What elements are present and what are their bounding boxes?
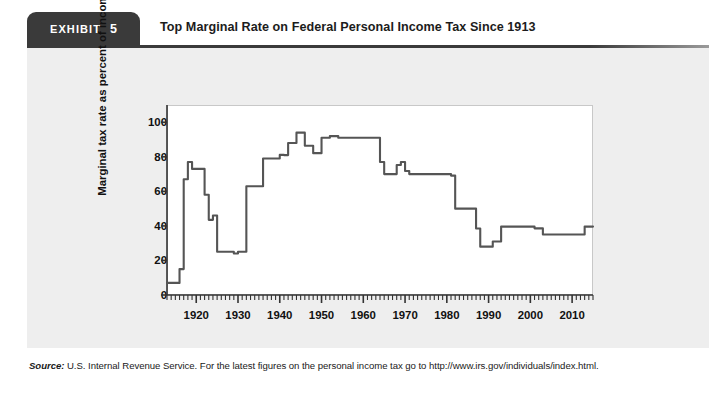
x-axis-tick-label: 1930: [225, 309, 250, 321]
exhibit-figure: EXHIBIT 5 Top Marginal Rate on Federal P…: [0, 0, 725, 415]
x-axis-tick-label: 1920: [184, 309, 209, 321]
x-axis-tick-label: 2010: [559, 309, 584, 321]
exhibit-header: EXHIBIT 5 Top Marginal Rate on Federal P…: [0, 0, 725, 46]
x-axis-tick-label: 1950: [309, 309, 334, 321]
line-chart: Marginal tax rate as percent of income 0…: [27, 48, 709, 348]
axis-ticks: [161, 105, 593, 303]
x-axis-tick-label: 2000: [518, 309, 543, 321]
source-note: Source: U.S. Internal Revenue Service. F…: [29, 360, 709, 371]
source-text: U.S. Internal Revenue Service. For the l…: [64, 360, 598, 371]
chart-svg: [27, 48, 709, 348]
tax-rate-line: [167, 133, 593, 283]
x-axis-tick-label: 1960: [351, 309, 376, 321]
exhibit-label-number: 5: [110, 22, 117, 36]
x-axis-tick-label: 1980: [434, 309, 459, 321]
exhibit-label-word: EXHIBIT: [50, 23, 101, 35]
exhibit-title: Top Marginal Rate on Federal Personal In…: [160, 20, 536, 34]
exhibit-label-tab: EXHIBIT 5: [27, 12, 140, 45]
x-axis-tick-label: 1970: [392, 309, 417, 321]
x-axis-tick-label: 1990: [476, 309, 501, 321]
source-label: Source:: [29, 360, 64, 371]
x-axis-tick-label: 1940: [267, 309, 292, 321]
